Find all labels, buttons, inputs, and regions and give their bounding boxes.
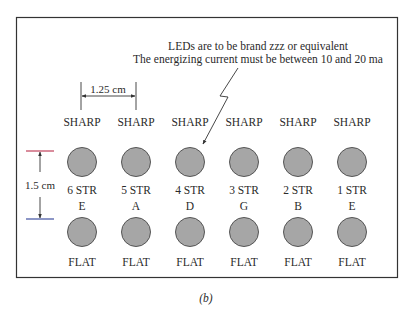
string-label: 3 STR xyxy=(229,184,259,196)
sharp-label: SHARP xyxy=(171,116,208,128)
string-label: 6 STR xyxy=(67,184,97,196)
note-line-2: The energizing current must be between 1… xyxy=(133,53,383,66)
sharp-label: SHARP xyxy=(225,116,262,128)
flat-label: FLAT xyxy=(68,256,95,268)
sharp-label: SHARP xyxy=(117,116,154,128)
note-label: D xyxy=(186,200,194,212)
note-label: E xyxy=(78,200,85,212)
flat-label: FLAT xyxy=(122,256,149,268)
note-label: E xyxy=(348,200,355,212)
sharp-label: SHARP xyxy=(279,116,316,128)
led-sharp xyxy=(176,148,205,177)
string-label: 5 STR xyxy=(121,184,151,196)
led-flat xyxy=(230,218,259,247)
led-sharp xyxy=(284,148,313,177)
flat-label: FLAT xyxy=(284,256,311,268)
figure-caption: (b) xyxy=(199,292,213,305)
flat-label: FLAT xyxy=(176,256,203,268)
flat-label: FLAT xyxy=(338,256,365,268)
led-sharp xyxy=(68,148,97,177)
string-label: 4 STR xyxy=(175,184,205,196)
led-flat xyxy=(338,218,367,247)
led-flat xyxy=(176,218,205,247)
string-label: 1 STR xyxy=(337,184,367,196)
led-flat xyxy=(122,218,151,247)
led-layout-diagram: LEDs are to be brand zzz or equivalent T… xyxy=(0,0,412,313)
sharp-label: SHARP xyxy=(333,116,370,128)
led-sharp xyxy=(230,148,259,177)
note-label: G xyxy=(240,200,248,212)
led-sharp xyxy=(122,148,151,177)
led-sharp xyxy=(338,148,367,177)
note-line-1: LEDs are to be brand zzz or equivalent xyxy=(168,40,349,53)
note-label: B xyxy=(294,200,302,212)
dim-horizontal-label: 1.25 cm xyxy=(90,83,126,95)
note-label: A xyxy=(132,200,141,212)
flat-label: FLAT xyxy=(230,256,257,268)
string-label: 2 STR xyxy=(283,184,313,196)
sharp-label: SHARP xyxy=(63,116,100,128)
led-flat xyxy=(284,218,313,247)
led-flat xyxy=(68,218,97,247)
dim-vertical-label: 1.5 cm xyxy=(25,179,55,191)
